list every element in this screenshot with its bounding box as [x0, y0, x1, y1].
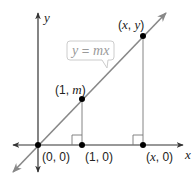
label-x-zero: (x, 0) [146, 149, 173, 164]
point-x-y [140, 33, 146, 39]
label-one-zero: (1, 0) [85, 150, 113, 164]
point-x-zero [140, 142, 146, 148]
point-origin [35, 142, 41, 148]
slope-diagram: x y y = mx (0, 0) (1, 0) (1, m) (x, 0) (… [0, 0, 195, 182]
label-origin: (0, 0) [42, 150, 70, 164]
y-axis-label: y [42, 10, 50, 25]
label-one-m: (1, m) [55, 82, 86, 97]
equation-label: y = mx [70, 43, 110, 58]
point-one-zero [79, 142, 85, 148]
x-axis-label: x [184, 147, 191, 162]
label-x-y: (x, y) [118, 17, 144, 32]
equation-callout: y = mx [67, 41, 114, 68]
